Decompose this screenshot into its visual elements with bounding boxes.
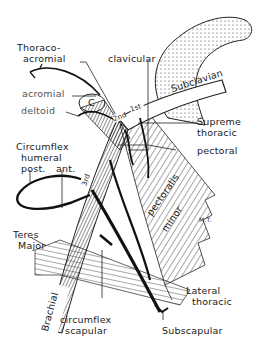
label-supreme-thoracic-line1: Supreme [197, 117, 241, 127]
label-supreme-thoracic-line2: thoracic [197, 128, 237, 138]
label-circumflex-humeral-line2: humeral [21, 153, 62, 163]
label-coracoid: C [88, 98, 95, 108]
label-thoraco-acromial-line2: acromial [23, 54, 66, 64]
label-circumflex-scapular-line1: circumflex [60, 315, 111, 325]
label-thoraco-acromial-line1: Thoraco- [17, 43, 61, 53]
label-lateral-thoracic-line1: Lateral [186, 286, 220, 296]
label-deltoid: deltoid [21, 106, 55, 116]
pectoralis-minor-muscle [120, 115, 215, 285]
label-circumflex-humeral-line1: Circumflex [16, 142, 69, 152]
label-pectoral: pectoral [197, 146, 238, 156]
axillary-artery-diagram: Thoraco- acromial clavicular Subclavian … [0, 0, 259, 346]
label-teres-major-line1: Teres [13, 230, 39, 240]
label-post: post. [21, 164, 46, 174]
label-subscapular: Subscapular [162, 326, 223, 336]
label-ant: ant. [56, 164, 75, 174]
label-lateral-thoracic-line2: thoracic [192, 297, 232, 307]
label-acromial: acromial [22, 89, 65, 99]
circumflex-humeral-arteries [17, 176, 90, 209]
label-circumflex-scapular-line2: scapular [65, 326, 107, 336]
label-initials: M.T. [199, 215, 212, 225]
label-teres-major-line2: Major [18, 241, 45, 251]
label-clavicular: clavicular [108, 54, 156, 64]
